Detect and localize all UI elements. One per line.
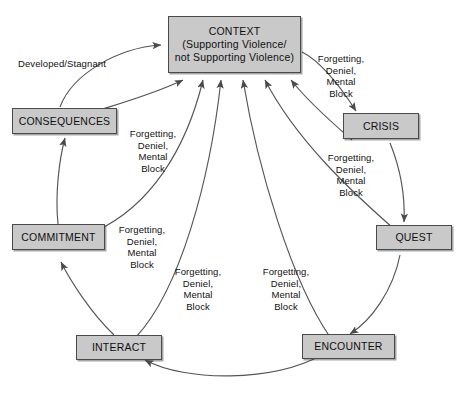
edge-consequences-to-context-left xyxy=(60,45,161,107)
node-commitment-label: COMMITMENT xyxy=(21,231,95,244)
node-context-line-1: (Supporting Violence/ xyxy=(182,38,286,51)
label-fdmb-consequences: Forgetting, Deniel, Mental Block xyxy=(124,128,182,174)
edge-quest-to-encounter xyxy=(350,255,400,334)
node-consequences[interactable]: CONSEQUENCES xyxy=(12,108,117,134)
node-context-line-0: CONTEXT xyxy=(209,25,261,38)
node-quest[interactable]: QUEST xyxy=(376,225,452,250)
node-context[interactable]: CONTEXT (Supporting Violence/ not Suppor… xyxy=(168,16,301,73)
node-context-line-2: not Supporting Violence) xyxy=(175,51,295,64)
edge-commitment-to-consequences xyxy=(57,138,65,224)
label-fdmb-commitment: Forgetting, Deniel, Mental Block xyxy=(113,224,171,270)
edge-interact-to-commitment xyxy=(61,262,114,335)
node-consequences-label: CONSEQUENCES xyxy=(19,115,111,128)
node-crisis[interactable]: CRISIS xyxy=(343,113,419,139)
label-fdmb-interact: Forgetting, Deniel, Mental Block xyxy=(169,266,227,312)
node-crisis-label: CRISIS xyxy=(363,120,399,133)
edge-crisis-to-quest xyxy=(390,143,404,222)
node-encounter[interactable]: ENCOUNTER xyxy=(302,334,395,359)
node-quest-label: QUEST xyxy=(395,231,432,244)
edge-encounter-to-interact xyxy=(145,355,322,376)
context-cycle-diagram: CONTEXT (Supporting Violence/ not Suppor… xyxy=(0,0,463,398)
node-encounter-label: ENCOUNTER xyxy=(314,340,382,353)
node-interact-label: INTERACT xyxy=(92,341,146,354)
label-fdmb-quest: Forgetting, Deniel, Mental Block xyxy=(322,152,380,198)
label-developed-stagnant: Developed/Stagnant xyxy=(18,58,128,70)
label-fdmb-encounter: Forgetting, Deniel, Mental Block xyxy=(257,266,315,312)
node-commitment[interactable]: COMMITMENT xyxy=(12,224,105,250)
label-developed-stagnant-line-0: Developed/Stagnant xyxy=(18,58,128,70)
label-fdmb-crisis: Forgetting, Deniel, Mental Block xyxy=(312,53,370,99)
node-interact[interactable]: INTERACT xyxy=(76,335,162,360)
